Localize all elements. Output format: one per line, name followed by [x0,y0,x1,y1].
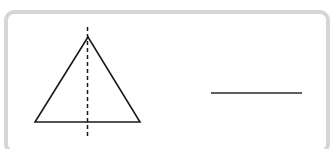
diagram-canvas [0,0,331,149]
